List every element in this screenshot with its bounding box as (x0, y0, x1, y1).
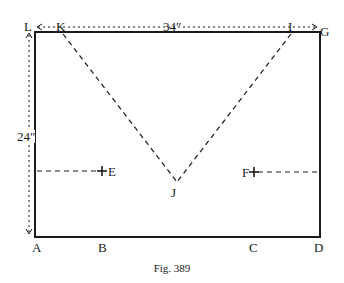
width-label: 34″ (163, 20, 181, 33)
label-k: K (56, 20, 65, 33)
line-k-j (63, 34, 177, 182)
cross-f-icon (249, 167, 259, 177)
label-f: F (242, 166, 249, 179)
label-g: G (320, 25, 329, 38)
cross-e-icon (97, 166, 107, 176)
label-l: L (24, 20, 32, 33)
outer-rectangle (35, 32, 320, 237)
line-i-j (177, 34, 291, 182)
figure-caption: Fig. 389 (0, 263, 344, 274)
label-b: B (98, 241, 107, 254)
label-c: C (249, 241, 258, 254)
label-i: I (288, 20, 292, 33)
height-label: 24″ (17, 130, 35, 143)
label-j: J (171, 186, 176, 199)
diagram-canvas (0, 0, 344, 283)
label-a: A (32, 241, 41, 254)
label-d: D (314, 241, 323, 254)
label-e: E (108, 165, 116, 178)
